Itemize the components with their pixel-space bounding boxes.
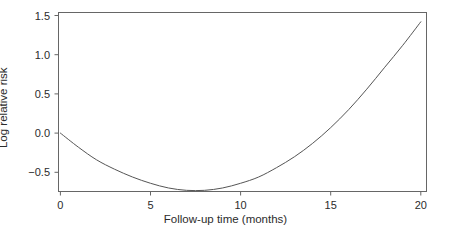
x-tick-label-2: 5 bbox=[147, 200, 153, 211]
x-tick-label-5: 20 bbox=[415, 200, 427, 211]
x-axis-title: Follow-up time (months) bbox=[0, 214, 451, 226]
y-tick-label-3: 0.5 bbox=[10, 88, 50, 99]
plot-frame bbox=[59, 13, 427, 192]
y-tick-label-4: 0.0 bbox=[10, 128, 50, 139]
plot-area bbox=[0, 0, 451, 241]
x-tick-label-3: 10 bbox=[234, 200, 246, 211]
x-tick-label-4: 15 bbox=[325, 200, 337, 211]
y-axis-ticks bbox=[55, 16, 59, 173]
y-axis-title: Log relative risk bbox=[0, 67, 10, 148]
y-tick-label-1: 1.5 bbox=[10, 10, 50, 21]
x-tick-label-1: 0 bbox=[57, 200, 63, 211]
y-tick-label-2: 1.0 bbox=[10, 49, 50, 60]
chart-figure: 1.5 1.0 0.5 0.0 −0.5 0 5 10 15 20 Follow… bbox=[0, 0, 451, 241]
x-axis-ticks bbox=[60, 192, 420, 196]
y-tick-label-5: −0.5 bbox=[10, 167, 50, 178]
